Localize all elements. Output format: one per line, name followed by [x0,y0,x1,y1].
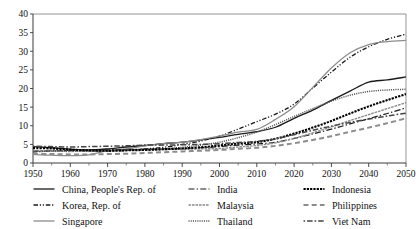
x-tick-label: 2020 [285,169,304,179]
legend-label: India [217,184,238,195]
y-tick-label: 10 [19,121,29,131]
x-tick-label: 1980 [135,169,154,179]
legend-swatch-malaysia [188,200,210,210]
y-tick-label: 35 [19,28,29,38]
x-tick-label: 2000 [210,169,229,179]
legend-swatch-singapore [33,216,55,226]
legend-label: Malaysia [217,200,254,211]
legend-swatch-china-people-s-rep-of [33,184,55,194]
x-tick-label: 1970 [98,169,117,179]
x-tick-label: 1950 [24,169,43,179]
legend-item-thailand[interactable]: Thailand [188,213,303,229]
y-tick-label: 40 [19,9,29,19]
legend-swatch-india [188,184,210,194]
x-tick-label: 2010 [247,169,266,179]
legend-swatch-philippines [303,200,325,210]
line-chart-svg: 0510152025303540195019601970198019902000… [0,0,416,180]
legend-label: Viet Nam [332,216,371,227]
legend-label: Indonesia [332,184,371,195]
legend-label: China, People's Rep. of [62,184,156,195]
legend-swatch-indonesia [303,184,325,194]
legend-row: Korea, Rep. ofMalaysiaPhilippines [33,197,416,213]
y-tick-label: 15 [19,103,29,113]
legend-item-singapore[interactable]: Singapore [33,213,188,229]
legend-item-china-people-s-rep-of[interactable]: China, People's Rep. of [33,181,188,197]
legend-item-indonesia[interactable]: Indonesia [303,181,416,197]
y-tick-label: 0 [23,158,28,168]
chart-figure: 0510152025303540195019601970198019902000… [0,0,416,229]
legend-row: SingaporeThailandViet Nam [33,213,416,229]
legend-label: Thailand [217,216,253,227]
plot-area: 0510152025303540195019601970198019902000… [0,0,416,180]
y-tick-label: 20 [19,84,29,94]
legend-label: Philippines [332,200,377,211]
legend-item-philippines[interactable]: Philippines [303,197,416,213]
y-tick-label: 25 [19,65,29,75]
series-group: China, People's Rep. ofKorea, Rep. ofSin… [33,34,406,155]
x-tick-label: 2040 [359,169,378,179]
legend-item-korea-rep-of[interactable]: Korea, Rep. of [33,197,188,213]
y-tick-label: 30 [19,47,29,57]
chart-legend: China, People's Rep. ofIndiaIndonesiaKor… [33,181,416,229]
x-tick-label: 1960 [61,169,80,179]
series-line-korea-rep-of: Korea, Rep. of [33,34,406,152]
legend-swatch-korea-rep-of [33,200,55,210]
legend-item-viet-nam[interactable]: Viet Nam [303,213,416,229]
x-tick-label: 2030 [322,169,341,179]
y-tick-label: 5 [23,140,28,150]
legend-row: China, People's Rep. ofIndiaIndonesia [33,181,416,197]
legend-item-malaysia[interactable]: Malaysia [188,197,303,213]
legend-item-india[interactable]: India [188,181,303,197]
x-tick-label: 2050 [397,169,416,179]
legend-swatch-thailand [188,216,210,226]
x-tick-label: 1990 [173,169,192,179]
legend-label: Korea, Rep. of [62,200,121,211]
legend-label: Singapore [62,216,103,227]
legend-swatch-viet-nam [303,216,325,226]
